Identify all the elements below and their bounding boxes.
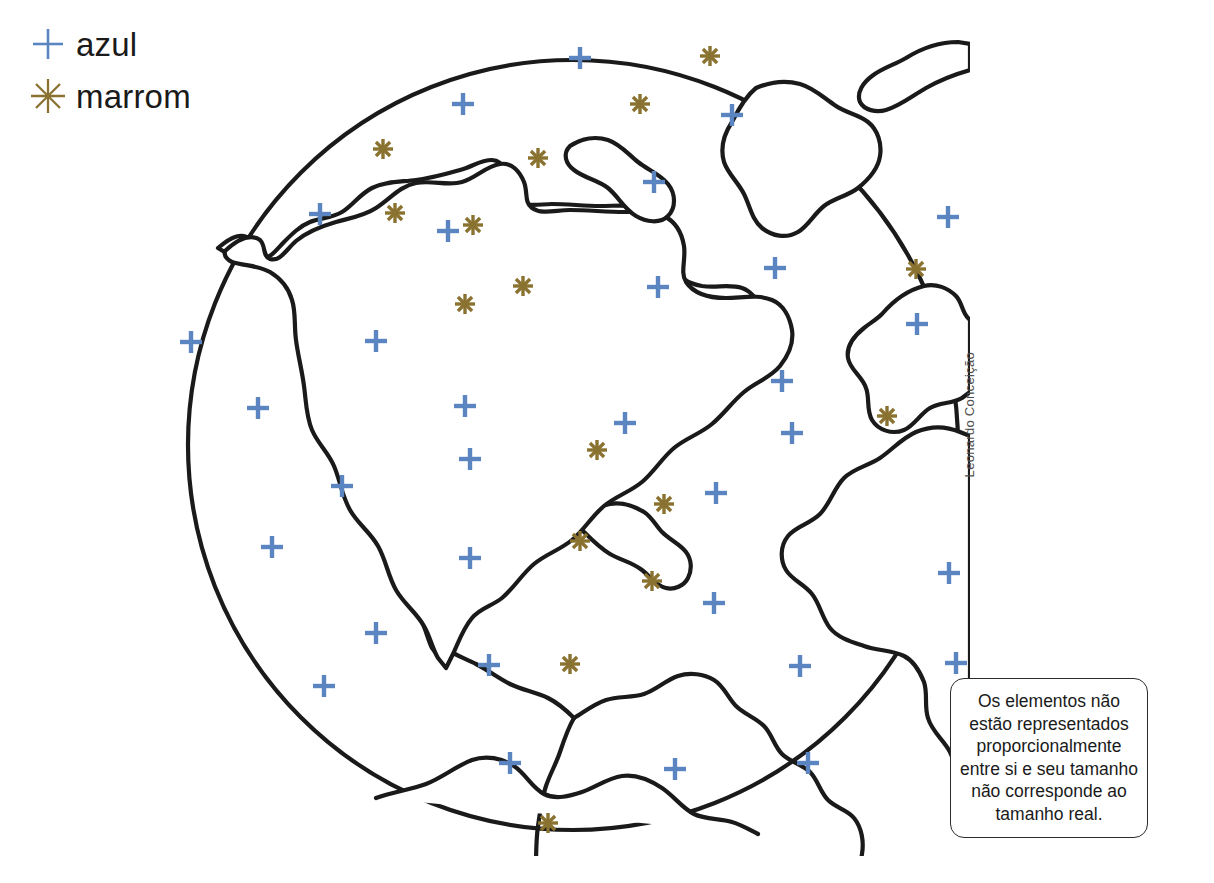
note-line: Os elementos não <box>959 690 1139 713</box>
asterisk-icon <box>513 276 533 296</box>
note-line: entre si e seu tamanho <box>959 758 1139 781</box>
arctic-strip-north <box>859 42 970 111</box>
globe-svg <box>180 36 970 856</box>
asterisk-icon <box>385 203 405 223</box>
asterisk-icon <box>877 406 897 426</box>
asterisk-icon <box>463 215 483 235</box>
asterisk-icon <box>642 571 662 591</box>
asterisk-icon <box>570 531 590 551</box>
note-line: proporcionalmente <box>959 735 1139 758</box>
note-line: tamanho real. <box>959 803 1139 826</box>
asterisk-icon <box>654 494 674 514</box>
worksheet-page: azul marrom <box>0 0 1214 883</box>
asterisk-icon <box>700 46 720 66</box>
asterisk-icon <box>455 294 475 314</box>
plus-icon <box>26 22 70 66</box>
asterisk-icon <box>630 94 650 114</box>
globe-illustration <box>180 36 970 856</box>
scale-disclaimer-note: Os elementos não estão representados pro… <box>950 678 1148 838</box>
legend-label-azul: azul <box>76 28 137 61</box>
legend-label-marrom: marrom <box>76 80 191 113</box>
asterisk-icon <box>373 139 393 159</box>
note-line: não corresponde ao <box>959 780 1139 803</box>
plus-icon <box>937 206 959 228</box>
note-line: estão representados <box>959 713 1139 736</box>
asterisk-icon <box>26 74 70 118</box>
illustration-credit: Leonardo Conceição <box>962 352 977 477</box>
asterisk-icon <box>560 654 580 674</box>
asterisk-icon <box>528 148 548 168</box>
asterisk-icon <box>538 813 558 833</box>
asterisk-icon <box>587 440 607 460</box>
asterisk-icon <box>906 259 926 279</box>
